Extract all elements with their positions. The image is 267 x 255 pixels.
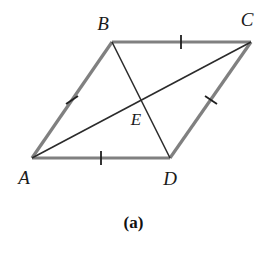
diagonal-bd [112,42,170,158]
vertex-label-c: C [241,10,254,29]
point-label-e: E [131,111,141,128]
diagonals-group [32,42,251,158]
figure-caption: (a) [0,214,267,231]
vertex-label-d: D [163,169,177,188]
geometry-figure: A B C D E (a) [0,0,267,255]
vertex-label-a: A [18,168,30,187]
vertex-label-b: B [97,14,109,33]
